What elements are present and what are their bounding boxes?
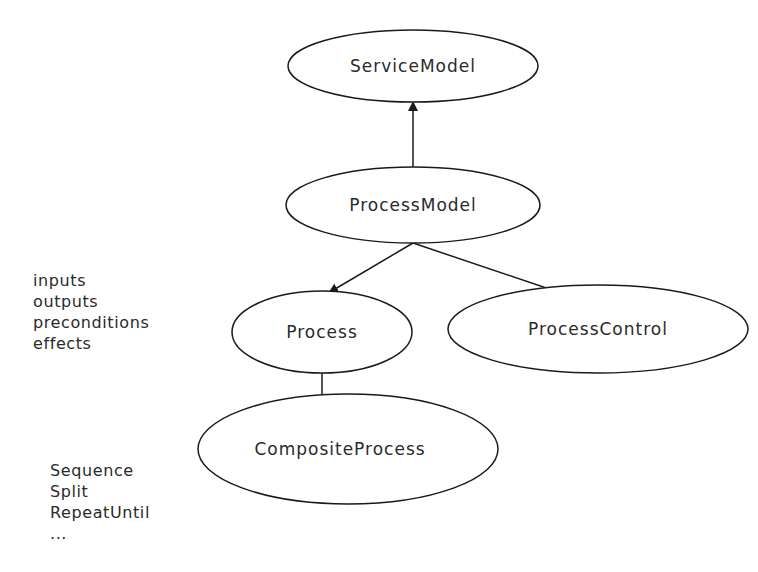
process-attributes-list: inputs outputs preconditions effects bbox=[33, 270, 149, 354]
attribute-effects: effects bbox=[33, 333, 149, 354]
node-process-model[interactable]: ProcessModel bbox=[286, 167, 540, 243]
node-label: Process bbox=[286, 322, 358, 342]
node-label: CompositeProcess bbox=[254, 439, 425, 459]
edge-processmodel-to-process bbox=[330, 243, 413, 292]
node-label: ServiceModel bbox=[350, 56, 476, 76]
node-process-control[interactable]: ProcessControl bbox=[448, 285, 748, 373]
construct-split: Split bbox=[50, 481, 150, 502]
control-constructs-list: Sequence Split RepeatUntil ... bbox=[50, 460, 150, 544]
node-service-model[interactable]: ServiceModel bbox=[288, 30, 538, 102]
node-composite-process[interactable]: CompositeProcess bbox=[198, 394, 498, 504]
construct-repeatuntil: RepeatUntil bbox=[50, 502, 150, 523]
node-label: ProcessControl bbox=[528, 319, 668, 339]
node-label: ProcessModel bbox=[349, 195, 477, 215]
attribute-outputs: outputs bbox=[33, 291, 149, 312]
attribute-inputs: inputs bbox=[33, 270, 149, 291]
construct-sequence: Sequence bbox=[50, 460, 150, 481]
attribute-preconditions: preconditions bbox=[33, 312, 149, 333]
node-process[interactable]: Process bbox=[232, 291, 412, 373]
construct-ellipsis: ... bbox=[50, 523, 150, 544]
